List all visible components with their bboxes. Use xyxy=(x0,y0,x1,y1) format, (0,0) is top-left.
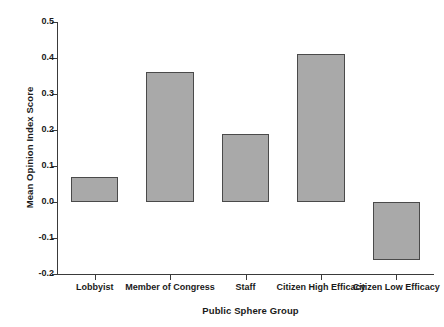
y-axis-title: Mean Opinion Index Score xyxy=(24,53,35,243)
x-tick-mark xyxy=(95,275,96,280)
y-tick-label: 0.0 xyxy=(41,196,54,206)
x-tick-mark xyxy=(246,275,247,280)
x-axis-title: Public Sphere Group xyxy=(57,305,444,316)
bar xyxy=(146,72,194,202)
y-tick-label: 0.4 xyxy=(41,52,54,62)
x-tick-label: Staff xyxy=(236,282,256,292)
x-tick-mark xyxy=(170,275,171,280)
y-tick-label: -0.1 xyxy=(38,232,54,242)
bar-chart: Mean Opinion Index Score 0.50.40.30.20.1… xyxy=(0,0,444,327)
x-tick-mark xyxy=(321,275,322,280)
y-tick-label: 0.1 xyxy=(41,160,54,170)
bar xyxy=(71,177,119,202)
bar xyxy=(373,202,421,260)
y-tick-label: 0.3 xyxy=(41,88,54,98)
y-tick-label: 0.5 xyxy=(41,16,54,26)
plot-area: 0.50.40.30.20.10.0-0.1-0.2 LobbyistMembe… xyxy=(57,22,434,274)
x-tick-label: Citizen Low Efficacy xyxy=(353,282,440,292)
bar xyxy=(222,134,270,202)
x-tick-label: Lobbyist xyxy=(76,282,114,292)
y-tick-label: -0.2 xyxy=(38,268,54,278)
bar xyxy=(297,54,345,202)
x-tick-label: Member of Congress xyxy=(125,282,215,292)
x-tick-mark xyxy=(396,275,397,280)
y-axis-line xyxy=(57,22,58,275)
y-tick-label: 0.2 xyxy=(41,124,54,134)
